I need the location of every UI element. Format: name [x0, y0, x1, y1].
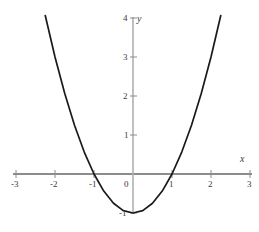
- x-axis-name: x: [240, 154, 244, 164]
- graph-figure: -3 -2 -1 0 1 2 3 4 3 2 1 -1 x y: [0, 0, 259, 232]
- y-tick-label-1: 1: [124, 131, 129, 140]
- y-tick-label-4: 4: [123, 14, 128, 23]
- y-axis-name: y: [137, 14, 141, 24]
- parabola-plot: [0, 0, 259, 232]
- x-tick-label-1: 1: [169, 180, 174, 189]
- x-tick-label-0: 0: [124, 180, 129, 189]
- y-tick-label-2: 2: [123, 92, 128, 101]
- y-tick-label-3: 3: [123, 53, 128, 62]
- x-tick-label--1: -1: [89, 180, 97, 189]
- y-tick-label--1: -1: [119, 209, 127, 218]
- x-tick-label-2: 2: [208, 180, 213, 189]
- x-tick-label--2: -2: [50, 180, 58, 189]
- x-tick-label--3: -3: [11, 180, 19, 189]
- x-tick-label-3: 3: [247, 180, 252, 189]
